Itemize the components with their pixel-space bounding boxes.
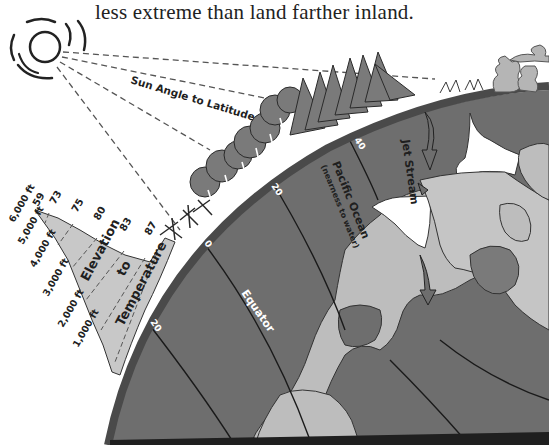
grass-fringe bbox=[440, 79, 483, 93]
temperature-label: 80 bbox=[91, 204, 108, 222]
sun-icon bbox=[11, 19, 85, 78]
temperature-label: 73 bbox=[47, 188, 64, 206]
temperature-label: 75 bbox=[69, 196, 86, 214]
elevation-label: 3,000 ft bbox=[40, 256, 71, 298]
sun-angle-label: Sun Angle to Latitude bbox=[129, 73, 256, 122]
temperature-label: 87 bbox=[142, 219, 159, 237]
climate-diagram: 6,000 ft 5,000 ft 4,000 ft 3,000 ft 2,00… bbox=[0, 0, 549, 445]
gulf-of-mexico bbox=[338, 305, 381, 347]
palm-trees bbox=[160, 200, 212, 240]
